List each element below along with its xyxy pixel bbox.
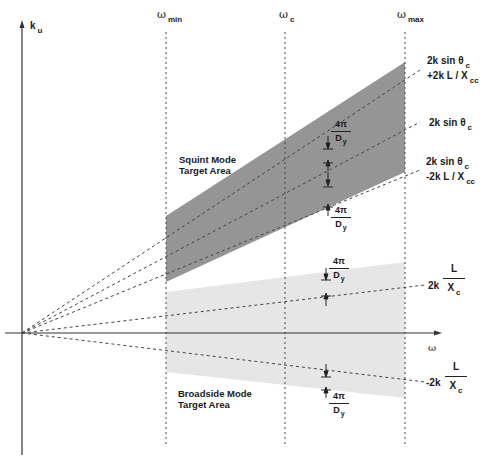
fraction-bar bbox=[445, 376, 467, 377]
omega-max-label: ωmax bbox=[397, 9, 424, 22]
fraction-bar bbox=[443, 278, 465, 279]
omega-min-symbol: ω bbox=[157, 8, 166, 21]
lower-label-line1: 2k sin θ bbox=[426, 156, 463, 167]
spacing-den-text: D bbox=[335, 219, 342, 229]
squint-label-line2: Target Area bbox=[179, 165, 236, 176]
center-label-sub: c bbox=[468, 123, 472, 132]
spacing-den-sub: y bbox=[341, 410, 345, 417]
broadside-upper-den-sub: c bbox=[456, 288, 460, 297]
omega-max-symbol: ω bbox=[397, 8, 406, 21]
omega-max-sub: max bbox=[408, 15, 424, 24]
broadside-upper-den-text: X bbox=[447, 282, 454, 293]
spacing-den: Dy bbox=[333, 270, 344, 281]
fraction-bar bbox=[329, 403, 349, 404]
broadside-lower-den-text: X bbox=[449, 380, 456, 391]
broadside-mode-label: Broadside Mode Target Area bbox=[178, 388, 252, 410]
omega-c-sub: c bbox=[290, 15, 294, 24]
broadside-upper-prefix: 2k bbox=[428, 280, 439, 292]
center-squint-line-label: 2k sin θc bbox=[429, 117, 472, 130]
lower-label-line1-sub: c bbox=[465, 162, 469, 171]
spacing-den: Dy bbox=[335, 219, 346, 230]
broadside-lower-num: L bbox=[453, 361, 459, 373]
lower-squint-line-label: 2k sin θc -2k L / Xcc bbox=[426, 156, 475, 184]
broadside-label-line2: Target Area bbox=[178, 399, 252, 410]
squint-label-line1: Squint Mode bbox=[179, 154, 236, 165]
center-label-text: 2k sin θ bbox=[429, 117, 466, 128]
spacing-den: Dy bbox=[335, 133, 346, 144]
upper-label-line1-sub: c bbox=[466, 61, 470, 70]
upper-label-line1: 2k sin θ bbox=[427, 55, 464, 66]
spacing-label-squint-top: 4π Dy bbox=[331, 119, 351, 144]
spacing-den-text: D bbox=[333, 405, 340, 415]
y-axis-label: ku bbox=[30, 20, 42, 33]
spacing-num: 4π bbox=[335, 119, 347, 130]
spacing-den: Dy bbox=[333, 405, 344, 416]
spacing-den-sub: y bbox=[343, 224, 347, 231]
omega-c-symbol: ω bbox=[279, 8, 288, 21]
lower-label-line2: -2k L / X bbox=[426, 171, 464, 182]
spacing-num: 4π bbox=[333, 256, 345, 267]
spacing-label-squint-bottom: 4π Dy bbox=[331, 205, 351, 230]
spacing-label-broadside-bottom: 4π Dy bbox=[329, 391, 349, 416]
spacing-num: 4π bbox=[333, 391, 345, 402]
spacing-den-sub: y bbox=[341, 275, 345, 282]
spacing-den-text: D bbox=[333, 270, 340, 280]
spacing-den-sub: y bbox=[343, 138, 347, 145]
omega-min-sub: min bbox=[168, 15, 182, 24]
broadside-upper-num: L bbox=[451, 263, 457, 275]
y-axis-label-text: k bbox=[30, 20, 36, 31]
x-axis-label: ω bbox=[428, 342, 436, 354]
upper-label-line2-sub: cc bbox=[470, 76, 479, 85]
y-axis-arrow-icon bbox=[20, 20, 25, 28]
broadside-upper-den: Xc bbox=[447, 282, 460, 295]
upper-label-line2: +2k L / X bbox=[427, 70, 468, 81]
fraction-bar bbox=[331, 217, 351, 218]
lower-label-line2-sub: cc bbox=[466, 177, 475, 186]
squint-mode-label: Squint Mode Target Area bbox=[179, 154, 236, 176]
broadside-lower-prefix: -2k bbox=[426, 377, 440, 389]
spacing-den-text: D bbox=[335, 133, 342, 143]
spacing-label-broadside-top: 4π Dy bbox=[329, 256, 349, 281]
broadside-lower-den: Xc bbox=[449, 380, 462, 393]
broadside-lower-fraction: L Xc bbox=[445, 361, 467, 393]
upper-squint-line-label: 2k sin θc +2k L / Xcc bbox=[427, 55, 479, 83]
fraction-bar bbox=[329, 268, 349, 269]
spacing-num: 4π bbox=[335, 205, 347, 216]
x-axis-arrow-icon bbox=[434, 331, 442, 336]
fraction-bar bbox=[331, 131, 351, 132]
y-axis-label-sub: u bbox=[38, 26, 43, 35]
omega-c-label: ωc bbox=[279, 9, 294, 22]
broadside-lower-den-sub: c bbox=[458, 386, 462, 395]
broadside-label-line1: Broadside Mode bbox=[178, 388, 252, 399]
omega-min-label: ωmin bbox=[157, 9, 182, 22]
broadside-upper-fraction: L Xc bbox=[443, 263, 465, 295]
